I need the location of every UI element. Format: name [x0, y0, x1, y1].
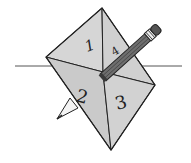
- spinner-diagram: 1 4 2 3: [0, 0, 191, 163]
- spinner-shape: [46, 8, 155, 150]
- section-3: [103, 72, 155, 150]
